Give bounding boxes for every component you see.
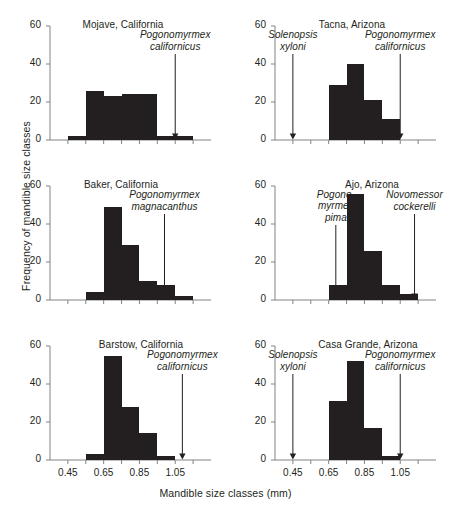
annotation-label-pogonomyrmex-californicus: Pogonomyrmexcalifornicus [115, 29, 235, 52]
histogram-bar [382, 285, 400, 300]
histogram-bar [175, 296, 193, 300]
histogram-bar [104, 96, 122, 140]
y-tick-label: 0 [19, 293, 41, 304]
histogram-bar [86, 454, 104, 460]
x-tick-label: 0.45 [51, 467, 85, 478]
y-tick-label: 20 [244, 255, 266, 266]
annotation-label-pogonomyrmex-magnacanthus: Pogonomyrmexmagnacanthus [104, 189, 224, 212]
y-tick-label: 0 [19, 133, 41, 144]
histogram-bar [382, 119, 400, 140]
annotation-arrow-solenopsis-xyloni [290, 54, 296, 140]
y-tick-label: 0 [244, 293, 266, 304]
histogram-bar [382, 456, 400, 460]
y-tick-label: 40 [19, 377, 41, 388]
annotation-label-solenopsis-xyloni: Solenopsisxyloni [233, 349, 353, 372]
panel-mojave: Mojave, CaliforniaPogonomyrmexcalifornic… [8, 8, 218, 148]
histogram-bar [347, 361, 365, 460]
histogram-bar [122, 94, 140, 140]
x-tick-label: 0.85 [122, 467, 156, 478]
x-tick-label: 1.05 [383, 467, 417, 478]
histogram-bar [364, 251, 382, 300]
histogram-bar [104, 207, 122, 300]
annotation-label-novomessor-cockerelli: Novomessorcockerelli [355, 189, 451, 212]
y-tick-label: 0 [244, 453, 266, 464]
histogram-bar [86, 292, 104, 300]
x-tick-label: 0.85 [347, 467, 381, 478]
annotation-label-pogonomyrmex-californicus: Pogonomyrmexcalifornicus [340, 349, 451, 372]
y-tick-label: 40 [244, 377, 266, 388]
histogram-bar [86, 91, 104, 140]
histogram-bar [139, 433, 157, 460]
histogram-bar [157, 136, 175, 140]
y-tick-label: 40 [244, 217, 266, 228]
panel-ajo: Ajo, ArizonaPogono-myrmexpimaNovomessorc… [233, 168, 443, 308]
x-tick-label: 0.65 [87, 467, 121, 478]
y-tick-label: 60 [19, 19, 41, 30]
y-tick-label: 40 [244, 57, 266, 68]
annotation-arrow-pogonomyrmex-californicus [179, 374, 185, 460]
histogram-bar [347, 64, 365, 140]
panel-casa-grande: Casa Grande, ArizonaSolenopsisxyloniPogo… [233, 328, 443, 468]
y-tick-label: 60 [19, 179, 41, 190]
annotation-arrow-pogonomyrmex-californicus [172, 54, 178, 140]
y-tick-label: 60 [19, 339, 41, 350]
panel-barstow: Barstow, CaliforniaPogonomyrmexcaliforni… [8, 328, 218, 468]
histogram-bar [68, 136, 86, 140]
y-tick-label: 20 [19, 95, 41, 106]
histogram-bar [329, 401, 347, 460]
y-tick-label: 60 [244, 19, 266, 30]
histogram-bar [364, 100, 382, 140]
x-axis-title: Mandible size classes (mm) [0, 487, 451, 499]
histogram-bar [329, 85, 347, 140]
y-tick-label: 20 [244, 95, 266, 106]
histogram-bar [329, 285, 347, 300]
histogram-bar [175, 136, 193, 140]
annotation-arrow-solenopsis-xyloni [290, 374, 296, 460]
panel-tacna: Tacna, ArizonaSolenopsisxyloniPogonomyrm… [233, 8, 443, 148]
histogram-bar [364, 428, 382, 460]
y-tick-label: 40 [19, 217, 41, 228]
histogram-bar [157, 456, 175, 460]
annotation-label-solenopsis-xyloni: Solenopsisxyloni [233, 29, 353, 52]
annotation-arrow-pogonomyrmex-californicus [397, 374, 403, 460]
histogram-bar [122, 245, 140, 300]
y-tick-label: 20 [19, 255, 41, 266]
figure: Frequency of mandible size classes Mandi… [0, 0, 451, 507]
annotation-label-pogonomyrmex-californicus: Pogonomyrmexcalifornicus [122, 349, 242, 372]
y-tick-label: 60 [244, 179, 266, 190]
annotation-label-pogonomyrmex-californicus: Pogonomyrmexcalifornicus [340, 29, 451, 52]
histogram-bar [139, 281, 157, 300]
histogram-bar [104, 356, 122, 461]
x-tick-label: 1.05 [158, 467, 192, 478]
y-tick-label: 60 [244, 339, 266, 350]
y-tick-label: 40 [19, 57, 41, 68]
x-tick-label: 0.65 [312, 467, 346, 478]
histogram-bar [139, 94, 157, 140]
y-tick-label: 20 [19, 415, 41, 426]
y-tick-label: 20 [244, 415, 266, 426]
histogram-bar [157, 285, 175, 300]
y-tick-label: 0 [244, 133, 266, 144]
histogram-bar [122, 407, 140, 460]
y-tick-label: 0 [19, 453, 41, 464]
panel-baker: Baker, CaliforniaPogonomyrmexmagnacanthu… [8, 168, 218, 308]
x-tick-label: 0.45 [276, 467, 310, 478]
annotation-arrow-novomessor-cockerelli [411, 214, 417, 300]
